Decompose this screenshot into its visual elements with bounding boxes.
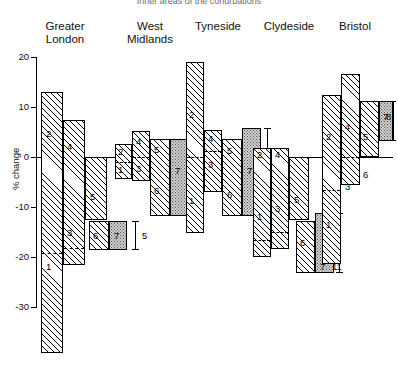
bar-bristol-5-6 [360, 101, 379, 157]
figure-title: Inner areas of the conurbations [0, 0, 398, 5]
bar-number: 2 [46, 129, 51, 139]
bar-number: 2 [326, 132, 331, 142]
bar-number: 6 [363, 170, 368, 180]
bar-number: 1 [189, 196, 194, 206]
group-label-greater-london: Greater London [20, 20, 110, 45]
divider-bristol-3-4 [342, 157, 359, 158]
bar-number: 3 [67, 228, 72, 238]
bar-number: 1 [326, 220, 331, 230]
y-tick-label-m20: -20 [0, 251, 29, 262]
y-tick-label-10: 10 [0, 101, 29, 112]
bar-number: 4 [275, 150, 280, 160]
bracket-label-bristol: 8 [386, 112, 391, 122]
bar-number: 2 [257, 150, 262, 160]
bar-tyneside-1-2 [186, 62, 204, 233]
group-label-clydeside: Clydeside [248, 20, 330, 33]
bar-number: 4 [345, 122, 350, 132]
group-label-line1: Tyneside [195, 20, 241, 32]
divider-west-midlands-1-2 [116, 162, 131, 163]
bar-clydeside-6 [296, 221, 315, 273]
bar-number: 6 [227, 190, 232, 200]
bar-number: 4 [67, 142, 72, 152]
group-label-line1: Bristol [339, 20, 371, 32]
y-tick-20 [31, 57, 37, 58]
group-label-line1: West [137, 20, 163, 32]
y-tick-m20 [31, 257, 37, 258]
bar-number: 3 [275, 204, 280, 214]
group-label-line1: Clydeside [264, 20, 315, 32]
divider-greater-london-1-2 [42, 253, 62, 254]
group-label-bristol: Bristol [320, 20, 390, 33]
bar-number: 5 [363, 132, 368, 142]
bar-number: 1 [118, 165, 123, 175]
bar-number: 6 [93, 231, 98, 241]
y-axis-line [36, 57, 37, 308]
bar-number: 5 [227, 146, 232, 156]
bar-number: 6 [300, 238, 305, 248]
divider-clydeside-3-4 [272, 232, 288, 233]
divider-bristol-1-2 [323, 190, 340, 191]
bar-number: 7 [114, 231, 119, 241]
bar-number: 5 [154, 145, 159, 155]
bar-clydeside-5 [289, 157, 309, 220]
bar-number: 3 [345, 182, 350, 192]
bar-west-midlands-5-6 [150, 139, 170, 216]
bar-number: 6 [154, 186, 159, 196]
bar-number: 2 [189, 110, 194, 120]
y-tick-label-20: 20 [0, 51, 29, 62]
bar-greater-london-6 [89, 221, 109, 250]
y-tick-10 [31, 107, 37, 108]
bar-number: 5 [90, 192, 95, 202]
divider-tyneside-3-4 [205, 151, 221, 152]
bar-number: 3 [136, 164, 141, 174]
bar-number: 4 [208, 134, 213, 144]
bar-number: 1 [46, 262, 51, 272]
bar-greater-london-5 [85, 157, 107, 220]
group-label-line2: Midlands [127, 33, 173, 45]
bar-bristol-1-2 [322, 95, 341, 264]
y-tick-label-m30: -30 [0, 301, 29, 312]
y-axis-title: % change [10, 148, 21, 190]
bar-number: 7 [175, 166, 180, 176]
divider-west-midlands-3-4 [133, 157, 149, 158]
group-label-line1: Greater [46, 20, 85, 32]
bar-number: 2 [118, 147, 123, 157]
bar-number: 3 [208, 160, 213, 170]
group-label-tyneside: Tyneside [178, 20, 258, 33]
bar-number: 5 [294, 195, 299, 205]
y-tick-m30 [31, 307, 37, 308]
bracket-label-greater-london: 5 [142, 231, 147, 241]
bar-clydeside-3-4 [271, 148, 289, 249]
bar-number: 1 [257, 212, 262, 222]
y-tick-label-m10: -10 [0, 201, 29, 212]
group-label-line2: London [46, 33, 84, 45]
chart-figure: Inner areas of the conurbations Greater … [0, 0, 398, 379]
bar-number: 7 [247, 166, 252, 176]
bar-number: 4 [136, 137, 141, 147]
divider-greater-london-3-4 [64, 248, 84, 249]
divider-clydeside-1-2 [254, 240, 270, 241]
bar-greater-london-1-2 [41, 92, 63, 353]
y-tick-m10 [31, 207, 37, 208]
divider-tyneside-1-2 [187, 157, 203, 158]
bar-bristol-3-4 [341, 74, 360, 185]
